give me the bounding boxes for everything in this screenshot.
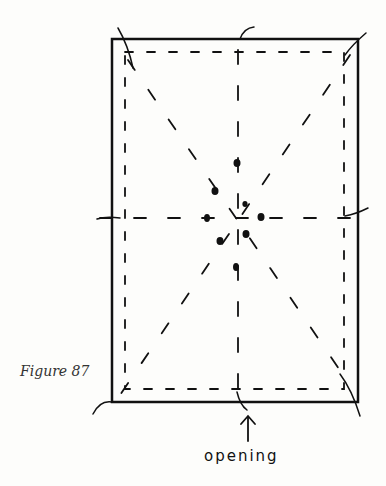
dot — [258, 213, 265, 221]
diagonal-fold-line-2 — [120, 55, 350, 395]
edge-curl-top-center — [240, 27, 254, 39]
corner-curl-bottom-left — [93, 402, 112, 414]
dot — [242, 201, 247, 207]
dot — [233, 263, 239, 271]
edge-curl-right — [345, 208, 368, 216]
dot — [212, 187, 219, 195]
corner-curl-top-right — [345, 33, 366, 55]
dot — [243, 230, 250, 238]
diagonal-fold-line-1 — [128, 60, 350, 385]
figure-caption: Figure 87 — [20, 363, 89, 379]
dot — [204, 214, 210, 222]
opening-label: opening — [204, 447, 279, 465]
dot — [217, 237, 224, 245]
folding-diagram — [0, 0, 386, 486]
dot — [234, 159, 241, 167]
inner-dashed-rectangle — [125, 52, 344, 389]
outer-rectangle — [112, 39, 358, 402]
